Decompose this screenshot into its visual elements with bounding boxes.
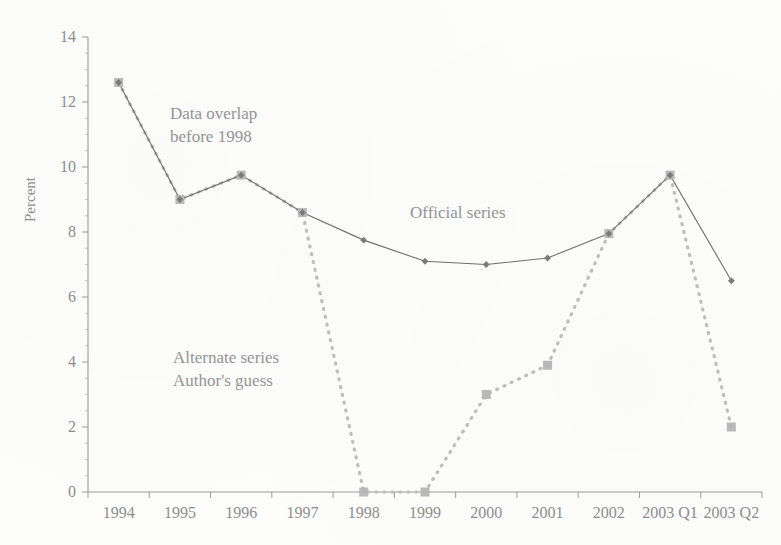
x-axis-tick-label: 1996 bbox=[225, 504, 257, 522]
x-axis-tick-label: 1995 bbox=[164, 504, 196, 522]
alternate-series-marker bbox=[727, 423, 736, 432]
y-axis-tick-label: 0 bbox=[46, 483, 76, 501]
x-axis-tick-label: 1994 bbox=[103, 504, 135, 522]
x-axis-tick-label: 1997 bbox=[286, 504, 318, 522]
x-axis-tick-label: 1999 bbox=[409, 504, 441, 522]
chart-plot-area bbox=[0, 0, 781, 545]
annotation-alternate-series-line2: Author's guess bbox=[173, 370, 279, 393]
alternate-series-marker bbox=[421, 488, 430, 497]
y-axis-tick-label: 6 bbox=[46, 288, 76, 306]
alternate-series-marker bbox=[482, 390, 491, 399]
y-axis-tick-label: 2 bbox=[46, 418, 76, 436]
x-axis-tick-label: 2002 bbox=[593, 504, 625, 522]
chart-container: Percent Data overlap before 1998 Alterna… bbox=[0, 0, 781, 545]
y-axis-tick-label: 12 bbox=[46, 93, 76, 111]
x-axis-tick-label: 1998 bbox=[348, 504, 380, 522]
y-axis-tick-label: 14 bbox=[46, 28, 76, 46]
x-axis-tick-label: 2000 bbox=[470, 504, 502, 522]
annotation-data-overlap-line2: before 1998 bbox=[170, 126, 257, 149]
x-axis-tick-label: 2001 bbox=[532, 504, 564, 522]
y-axis-title: Percent bbox=[22, 177, 39, 222]
x-axis-tick-label: 2003 Q2 bbox=[704, 504, 760, 522]
annotation-official-series-line1: Official series bbox=[410, 202, 506, 225]
alternate-series-marker bbox=[543, 361, 552, 370]
y-axis-tick-label: 4 bbox=[46, 353, 76, 371]
annotation-alternate-series: Alternate series Author's guess bbox=[173, 347, 279, 393]
official-series-marker bbox=[544, 255, 551, 262]
official-series-marker bbox=[360, 237, 367, 244]
official-series-marker bbox=[728, 277, 735, 284]
y-axis-tick-label: 10 bbox=[46, 158, 76, 176]
alternate-series-marker bbox=[359, 488, 368, 497]
y-axis-tick-label: 8 bbox=[46, 223, 76, 241]
official-series-marker bbox=[422, 258, 429, 265]
annotation-data-overlap: Data overlap before 1998 bbox=[170, 103, 257, 149]
annotation-data-overlap-line1: Data overlap bbox=[170, 103, 257, 126]
official-series-marker bbox=[483, 261, 490, 268]
x-axis-tick-label: 2003 Q1 bbox=[642, 504, 698, 522]
annotation-official-series: Official series bbox=[410, 202, 506, 225]
annotation-alternate-series-line1: Alternate series bbox=[173, 347, 279, 370]
